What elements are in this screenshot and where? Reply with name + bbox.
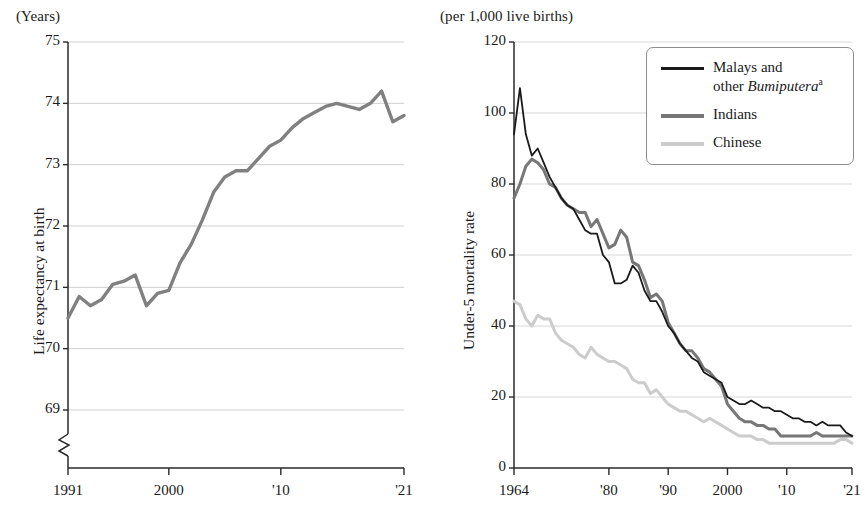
y-tick-label: 120 <box>458 32 506 49</box>
panel-under5-mortality: (per 1,000 live births) Under-5 mortalit… <box>432 0 864 518</box>
y-tick-label: 74 <box>16 93 60 110</box>
y-tick-label: 75 <box>16 32 60 49</box>
y-tick-label: 72 <box>16 216 60 233</box>
legend-line-swatch <box>661 114 704 118</box>
legend-line-swatch <box>661 142 704 146</box>
figure-root: (Years) Life expectancy at birth 6970717… <box>0 0 864 518</box>
x-tick-label: 2000 <box>129 482 209 499</box>
legend-label: Indians <box>713 105 757 124</box>
y-tick-label: 71 <box>16 277 60 294</box>
x-tick-label: '10 <box>241 482 321 499</box>
legend-label: Chinese <box>713 133 761 152</box>
y-tick-label: 0 <box>458 458 506 475</box>
y-tick-label: 69 <box>16 400 60 417</box>
y-tick-label: 20 <box>458 387 506 404</box>
legend-item: Indians <box>661 105 757 124</box>
legend-item: Malays and other Bumiputeraa <box>661 58 823 96</box>
y-tick-label: 73 <box>16 155 60 172</box>
y-tick-label: 40 <box>458 316 506 333</box>
legend-item: Chinese <box>661 133 761 152</box>
y-tick-label: 60 <box>458 245 506 262</box>
y-tick-label: 70 <box>16 339 60 356</box>
legend: Malays and other BumiputeraaIndiansChine… <box>646 47 854 165</box>
x-tick-label: 1991 <box>28 482 108 499</box>
x-tick-label: 1964 <box>474 482 554 499</box>
legend-line-swatch <box>661 67 704 70</box>
x-tick-label: '21 <box>812 482 864 499</box>
y-tick-label: 100 <box>458 103 506 120</box>
legend-label: Malays and other Bumiputeraa <box>713 58 823 96</box>
panel-life-expectancy: (Years) Life expectancy at birth 6970717… <box>0 0 432 518</box>
chart-life-expectancy <box>0 0 432 518</box>
y-tick-label: 80 <box>458 174 506 191</box>
